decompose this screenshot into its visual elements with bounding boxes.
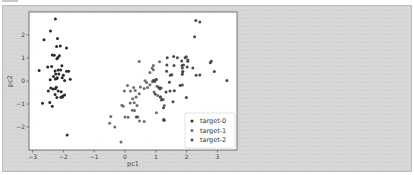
data-point [148, 83, 151, 86]
data-point [169, 90, 172, 93]
y-tick-label: −2 [16, 123, 25, 130]
x-tick-label: −2 [59, 153, 68, 160]
data-point [61, 76, 64, 79]
data-point [143, 120, 146, 123]
data-point [124, 116, 127, 119]
data-point [162, 119, 165, 122]
data-point [186, 66, 189, 69]
x-tick-label: −3 [28, 153, 37, 160]
data-point [55, 86, 58, 89]
data-point [49, 87, 52, 90]
data-point [41, 102, 44, 105]
data-point [61, 96, 64, 99]
data-point [139, 86, 142, 89]
data-point [129, 102, 132, 105]
x-tick-label: 2 [185, 153, 189, 160]
data-point [120, 140, 123, 143]
data-point [67, 70, 70, 73]
data-point [170, 73, 173, 76]
data-point [198, 74, 201, 77]
data-point [109, 115, 112, 118]
data-point [60, 64, 63, 67]
data-point [143, 87, 146, 90]
scatter-chart: −2−1012 −3−2−10123 target-0 target-1 tar… [0, 0, 414, 175]
data-point [132, 86, 135, 89]
data-point [158, 60, 161, 63]
data-point [185, 96, 188, 99]
data-point [225, 79, 228, 82]
data-point [129, 89, 132, 92]
data-point [135, 96, 138, 99]
data-point [186, 60, 189, 63]
data-point [191, 67, 194, 70]
data-point [51, 54, 54, 57]
data-point [134, 89, 137, 92]
data-point [133, 101, 136, 104]
data-point [181, 71, 184, 74]
legend-marker-icon [191, 120, 194, 123]
data-point [51, 105, 54, 108]
x-axis: −3−2−10123 [28, 150, 219, 160]
data-point [57, 90, 60, 93]
data-point [131, 109, 134, 112]
data-point [210, 60, 213, 63]
data-point [144, 79, 147, 82]
data-point [165, 70, 168, 73]
data-point [55, 57, 58, 60]
data-point [182, 64, 185, 67]
data-point [176, 56, 179, 59]
data-point [162, 106, 165, 109]
data-point [166, 56, 169, 59]
y-axis-label: pc2 [6, 75, 14, 87]
data-point [185, 55, 188, 58]
data-point [135, 115, 138, 118]
legend: target-0 target-1 target-2 [185, 113, 235, 148]
data-point [108, 122, 111, 125]
data-point [38, 69, 41, 72]
data-point [181, 84, 184, 87]
data-point [54, 77, 57, 80]
data-point [65, 46, 68, 49]
data-point [49, 78, 52, 81]
data-point [123, 90, 126, 93]
legend-label: target-1 [200, 127, 226, 135]
data-point [138, 120, 141, 123]
data-point [180, 60, 183, 63]
data-point [172, 55, 175, 58]
data-point [173, 89, 176, 92]
legend-label: target-0 [200, 117, 226, 125]
data-point [194, 19, 197, 22]
legend-marker-icon [191, 129, 194, 132]
y-tick-label: 2 [21, 31, 25, 38]
data-point [213, 70, 216, 73]
data-point [154, 93, 157, 96]
data-point [69, 78, 72, 81]
data-point [136, 104, 139, 107]
x-tick-label: −1 [90, 153, 99, 160]
data-point [54, 73, 57, 76]
data-point [155, 111, 158, 114]
data-point [168, 81, 171, 84]
data-point [195, 74, 198, 77]
data-point [122, 105, 125, 108]
data-point [173, 64, 176, 67]
data-point [55, 45, 58, 48]
x-tick-label: 0 [123, 153, 127, 160]
data-point [43, 38, 46, 41]
legend-marker-icon [191, 139, 194, 142]
data-point [50, 65, 53, 68]
data-point [54, 70, 57, 73]
x-tick-label: 1 [154, 153, 158, 160]
data-point [165, 91, 168, 94]
data-point [138, 60, 141, 63]
data-point [57, 73, 60, 76]
data-point [152, 64, 155, 67]
data-point [148, 71, 151, 74]
data-point [59, 69, 62, 72]
data-point [161, 98, 164, 101]
data-point [153, 80, 156, 83]
data-point [172, 100, 175, 103]
data-point [54, 93, 57, 96]
data-point [131, 97, 134, 100]
data-point [54, 18, 57, 21]
